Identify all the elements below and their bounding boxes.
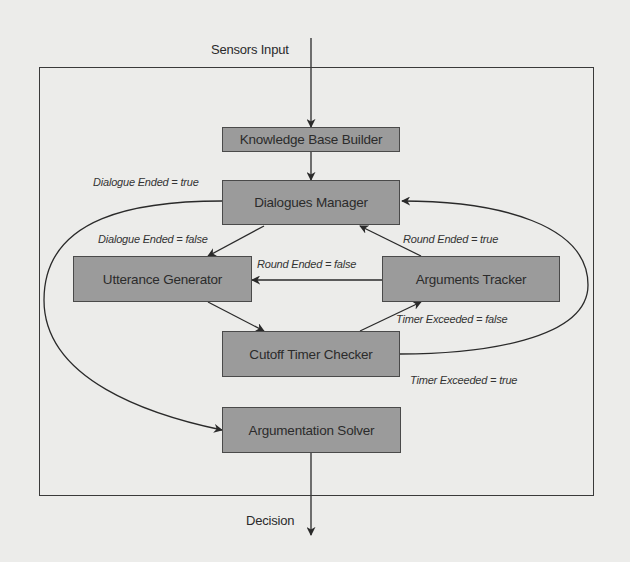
node-label: Knowledge Base Builder: [240, 132, 383, 147]
node-label: Arguments Tracker: [416, 272, 527, 287]
edge-label-round-ended-false: Round Ended = false: [257, 258, 356, 270]
output-label: Decision: [246, 513, 294, 528]
edge-label-round-ended-true: Round Ended = true: [403, 233, 498, 245]
edge-label-timer-exceeded-false: Timer Exceeded = false: [396, 313, 507, 325]
node-label: Utterance Generator: [103, 272, 222, 287]
node-utterance-generator: Utterance Generator: [73, 256, 252, 302]
node-label: Dialogues Manager: [254, 195, 368, 210]
node-cutoff-timer-checker: Cutoff Timer Checker: [222, 331, 400, 377]
edge-label-dialogue-ended-true: Dialogue Ended = true: [93, 176, 199, 188]
edge-label-dialogue-ended-false: Dialogue Ended = false: [98, 233, 208, 245]
edge-label-timer-exceeded-true: Timer Exceeded = true: [410, 374, 517, 386]
node-dialogues-manager: Dialogues Manager: [222, 180, 400, 225]
input-label: Sensors Input: [211, 42, 289, 57]
node-label: Argumentation Solver: [249, 423, 375, 438]
node-argumentation-solver: Argumentation Solver: [222, 407, 401, 453]
node-label: Cutoff Timer Checker: [249, 347, 372, 362]
node-arguments-tracker: Arguments Tracker: [382, 256, 560, 302]
node-knowledge-base-builder: Knowledge Base Builder: [222, 127, 400, 152]
